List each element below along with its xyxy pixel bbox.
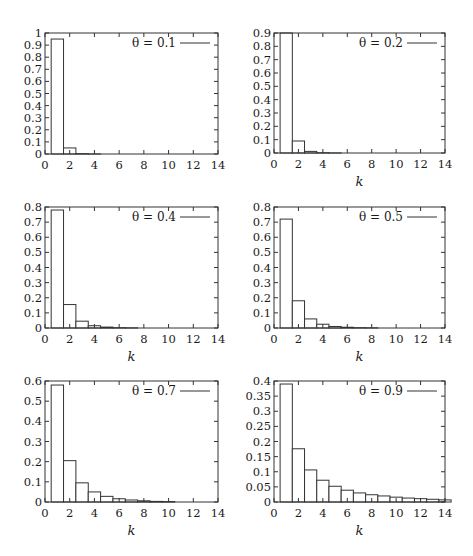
y-tick-label: 0.25 — [245, 419, 271, 433]
histogram-bars — [280, 384, 451, 502]
chart-svg: 0246810121400.050.10.150.20.250.30.350.4… — [0, 0, 473, 556]
x-axis-title: k — [356, 523, 364, 538]
x-tick-label: 8 — [368, 506, 375, 520]
histogram-bar — [378, 496, 390, 502]
y-tick-label: 0.05 — [245, 480, 271, 494]
histogram-bar — [402, 498, 414, 502]
x-tick-label: 0 — [270, 506, 277, 520]
histogram-bar — [353, 493, 365, 502]
y-tick-label: 0.2 — [253, 435, 271, 449]
x-tick-label: 14 — [438, 506, 453, 520]
x-tick-label: 2 — [295, 506, 302, 520]
y-tick-label: 0.4 — [253, 374, 271, 388]
x-tick-label: 10 — [389, 506, 404, 520]
legend: θ = 0.9 — [359, 384, 437, 398]
y-tick-label: 0 — [264, 495, 271, 509]
x-tick-label: 12 — [413, 506, 428, 520]
y-tick-label: 0.1 — [253, 465, 271, 479]
x-tick-label: 6 — [344, 506, 351, 520]
histogram-bar — [329, 486, 341, 502]
x-tick-label: 4 — [319, 506, 326, 520]
y-tick-label: 0.3 — [253, 404, 271, 418]
y-axis: 00.050.10.150.20.250.30.350.4 — [245, 374, 445, 509]
histogram-bar — [280, 384, 292, 502]
histogram-bar — [305, 470, 317, 502]
y-tick-label: 0.35 — [245, 389, 271, 403]
y-tick-label: 0.15 — [245, 450, 271, 464]
histogram-bar — [292, 449, 304, 502]
legend-label: θ = 0.9 — [359, 384, 403, 398]
